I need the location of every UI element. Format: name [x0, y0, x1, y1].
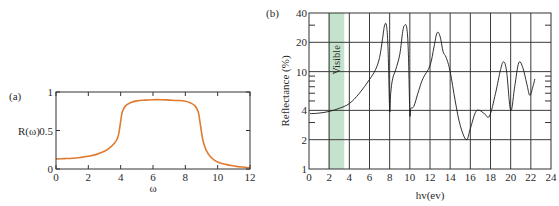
- panel-a-xlabel: ω: [149, 182, 156, 194]
- visible-band: [328, 13, 344, 169]
- panel-a-xtick-label: 6: [150, 171, 156, 183]
- panel-b-xtick-label: 20: [505, 171, 517, 183]
- panel-a-xtick-label: 0: [53, 171, 59, 183]
- panel-b-xtick-label: 0: [306, 171, 312, 183]
- panel-b-ytick-label: 20: [296, 36, 308, 48]
- chart-panel-a: (a) R(ω) ω 02468101200.51: [9, 86, 256, 194]
- panel-b-grid: [309, 13, 551, 169]
- panel-b-xtick-label: 24: [546, 171, 558, 183]
- panel-b-ylabel: Reflectance (%): [279, 55, 292, 126]
- panel-b-ytick-label: 2: [302, 134, 308, 146]
- panel-b-ytick-label: 40: [296, 7, 308, 19]
- panel-b-ytick-label: 1: [302, 163, 308, 175]
- panel-a-xtick-label: 4: [118, 171, 124, 183]
- panel-a-xtick-label: 2: [86, 171, 92, 183]
- panel-b-xtick-label: 16: [465, 171, 477, 183]
- panel-b-xtick-label: 10: [404, 171, 416, 183]
- panel-a-xtick-label: 8: [183, 171, 189, 183]
- panel-a-curve: [56, 100, 250, 168]
- panel-b-ytick-label: 4: [302, 104, 308, 116]
- panel-a-ytick-label: 0: [48, 163, 54, 175]
- panel-a-ytick-label: 1: [48, 86, 54, 98]
- panel-b-label: (b): [266, 7, 279, 20]
- panel-a-label: (a): [9, 90, 22, 103]
- figure: (a) R(ω) ω 02468101200.51 (b) Visible 02…: [0, 0, 559, 206]
- panel-b-xtick-label: 6: [367, 171, 373, 183]
- chart-panel-b: (b) Visible 0246810121416182022241241020…: [266, 7, 557, 202]
- visible-band-label: Visible: [331, 45, 342, 75]
- panel-a-xtick-label: 10: [212, 171, 224, 183]
- panel-a-ylabel: R(ω): [18, 125, 40, 138]
- panel-b-xtick-label: 2: [326, 171, 332, 183]
- panel-b-xtick-label: 18: [485, 171, 497, 183]
- panel-b-xtick-label: 14: [445, 171, 457, 183]
- panel-a-ytick-label: 0.5: [39, 125, 53, 137]
- panel-b-ytick-label: 10: [296, 66, 308, 78]
- panel-b-xtick-label: 4: [347, 171, 353, 183]
- panel-b-xtick-label: 22: [525, 171, 536, 183]
- panel-a-xtick-label: 12: [245, 171, 256, 183]
- panel-b-xtick-label: 12: [425, 171, 436, 183]
- figure-canvas: (a) R(ω) ω 02468101200.51 (b) Visible 02…: [0, 0, 559, 206]
- panel-b-xlabel: hv(ev): [416, 189, 445, 202]
- panel-b-xtick-label: 8: [387, 171, 393, 183]
